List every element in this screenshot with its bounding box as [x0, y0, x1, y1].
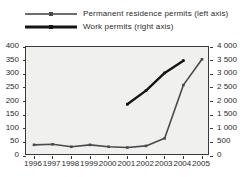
y-axis-right-tick-label: 2 500 [217, 83, 237, 91]
data-point-marker [70, 145, 73, 148]
y-axis-left-tick-mark [23, 87, 26, 88]
y-axis-right: 05001 0001 5002 0002 5003 0003 5004 000 [212, 46, 251, 155]
chart-legend: Permanent residence permits (left axis) … [25, 7, 225, 35]
series-line-permanent-residence [34, 59, 202, 147]
y-axis-left-tick-mark [23, 74, 26, 75]
data-point-marker [145, 89, 148, 92]
y-axis-right-tick-label: 1 500 [217, 110, 237, 118]
y-axis-right-tick-label: 3 500 [217, 56, 237, 64]
y-axis-left-tick-mark [23, 115, 26, 116]
y-axis-right-tick-label: 4 000 [217, 42, 237, 50]
y-axis-left-tick-label: 0 [15, 151, 19, 159]
legend-label-permanent-residence: Permanent residence permits (left axis) [83, 9, 228, 19]
y-axis-left-tick-label: 250 [6, 83, 19, 91]
chart-figure: Permanent residence permits (left axis) … [0, 0, 251, 177]
x-axis-tick-label: 2004 [173, 159, 191, 168]
data-point-marker [201, 58, 204, 61]
x-axis-tick-label: 1998 [61, 159, 79, 168]
y-axis-left-tick-mark [23, 47, 26, 48]
data-point-marker [51, 143, 54, 146]
y-axis-left-tick-label: 100 [6, 124, 19, 132]
data-point-marker [126, 103, 129, 106]
y-axis-right-tick-label: 0 [217, 151, 221, 159]
y-axis-left-tick-label: 50 [10, 137, 19, 145]
y-axis-left-tick-mark [23, 128, 26, 129]
y-axis-right-tick-label: 1 000 [217, 124, 237, 132]
y-axis-left-tick-label: 150 [6, 110, 19, 118]
y-axis-left-tick-mark [23, 60, 26, 61]
data-point-marker [163, 72, 166, 75]
series-line-work-permits [127, 61, 183, 105]
y-axis-right-tick-label: 2 000 [217, 97, 237, 105]
data-point-marker [126, 146, 129, 149]
x-axis-tick-label: 2003 [155, 159, 173, 168]
data-point-marker [145, 145, 148, 148]
y-axis-left-tick-label: 300 [6, 69, 19, 77]
x-axis-tick-label: 2005 [192, 159, 210, 168]
x-axis-tick-label: 1999 [80, 159, 98, 168]
legend-square-marker-icon [49, 25, 53, 29]
data-point-marker [89, 144, 92, 147]
x-axis-tick-label: 2001 [117, 159, 135, 168]
y-axis-left-tick-mark [23, 101, 26, 102]
y-axis-left-tick-label: 200 [6, 97, 19, 105]
legend-item-permanent-residence: Permanent residence permits (left axis) [25, 8, 228, 20]
legend-item-work-permits: Work permits (right axis) [25, 21, 174, 33]
x-axis-tick-label: 1997 [43, 159, 61, 168]
y-axis-left-tick-mark [23, 142, 26, 143]
y-axis-left: 050100150200250300350400 [0, 46, 22, 155]
legend-swatch-permanent-residence [25, 9, 77, 19]
x-axis: 1996199719981999200020012002200320042005 [25, 158, 209, 170]
y-axis-left-tick-label: 400 [6, 42, 19, 50]
data-point-marker [182, 59, 185, 62]
x-axis-tick-label: 1996 [24, 159, 42, 168]
y-axis-left-tick-mark [23, 156, 26, 157]
y-axis-left-tick-label: 350 [6, 56, 19, 64]
legend-square-marker-icon [49, 12, 53, 16]
legend-swatch-work-permits [25, 22, 77, 32]
plot-area [25, 46, 209, 155]
data-point-marker [107, 145, 110, 148]
x-axis-tick-label: 2002 [136, 159, 154, 168]
y-axis-right-tick-mark [210, 156, 213, 157]
legend-label-work-permits: Work permits (right axis) [83, 22, 174, 32]
y-axis-right-tick-label: 500 [217, 137, 230, 145]
data-point-marker [33, 144, 36, 147]
series-canvas [26, 47, 210, 156]
x-axis-tick-label: 2000 [99, 159, 117, 168]
y-axis-right-tick-label: 3 000 [217, 69, 237, 77]
data-point-marker [163, 137, 166, 140]
data-point-marker [182, 84, 185, 87]
